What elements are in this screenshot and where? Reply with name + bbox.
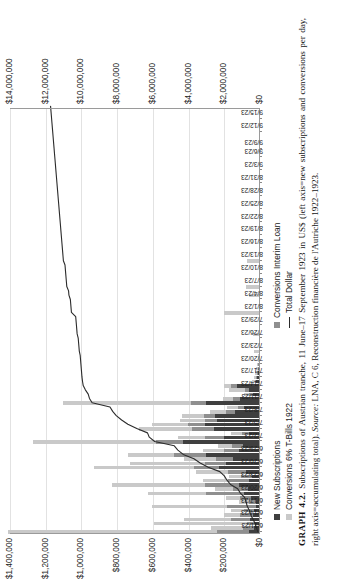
x-axis-date-label: 9/15/23 bbox=[241, 109, 263, 116]
x-axis-date-label: 6/14/23 bbox=[241, 509, 263, 516]
x-axis-date-label: 8/19/23 bbox=[241, 225, 263, 232]
x-axis-tick bbox=[260, 363, 262, 364]
y-axis-left-tick-label: $200,000 bbox=[219, 534, 228, 572]
x-axis-date-label: 7/14/23 bbox=[241, 380, 263, 387]
total-dollar-line bbox=[10, 108, 260, 534]
y-axis-right-tick-label: $6,000,000 bbox=[148, 63, 157, 108]
x-axis-tick bbox=[260, 247, 262, 248]
x-axis-date-label: 6/26/23 bbox=[241, 458, 263, 465]
x-axis-tick bbox=[260, 195, 262, 196]
chart-legend: New SubscriptionsConversions Interim Loa… bbox=[272, 120, 294, 520]
legend-item: Conversions 6% T-Bills 1922 bbox=[284, 350, 294, 520]
x-axis-date-label: 7/8/23 bbox=[245, 406, 263, 413]
y-axis-left-tick-label: $400,000 bbox=[184, 534, 193, 572]
x-axis-tick bbox=[260, 169, 262, 170]
figure-caption: GRAPH 4.2. Subscriptions of Austrian tra… bbox=[296, 18, 322, 546]
y-axis-right-tick-label: $14,000,000 bbox=[5, 58, 14, 108]
x-axis-tick bbox=[260, 311, 262, 312]
source-text: LNA, C 6, Reconstruction financière de l… bbox=[310, 173, 320, 402]
x-axis-tick bbox=[260, 299, 262, 300]
x-axis-tick bbox=[260, 157, 262, 158]
x-axis-date-label: 8/1/23 bbox=[245, 303, 263, 310]
x-axis-date-label: 7/20/23 bbox=[241, 355, 263, 362]
x-axis-tick bbox=[260, 531, 262, 532]
x-axis-date-label: 6/23/23 bbox=[241, 471, 263, 478]
x-axis-tick bbox=[260, 479, 262, 480]
x-axis-tick bbox=[260, 505, 262, 506]
x-axis-date-label: 7/5/23 bbox=[245, 419, 263, 426]
x-axis-tick bbox=[260, 118, 262, 119]
y-axis-right-tick-label: $4,000,000 bbox=[184, 63, 193, 108]
legend-square-swatch-icon bbox=[274, 322, 280, 328]
chart-plot-area: $0$200,000$400,000$600,000$800,000$1,000… bbox=[10, 108, 260, 534]
legend-item: Conversions Interim Loan bbox=[272, 158, 282, 328]
x-axis-tick bbox=[260, 518, 262, 519]
x-axis-date-label: 7/17/23 bbox=[241, 367, 263, 374]
y-axis-right-tick-label: $10,000,000 bbox=[76, 58, 85, 108]
x-axis-date-label: 6/20/23 bbox=[241, 484, 263, 491]
legend-item-label: Conversions Interim Loan bbox=[272, 223, 282, 318]
x-axis-tick bbox=[260, 466, 262, 467]
x-axis-date-label: 6/11/23 bbox=[241, 522, 263, 529]
y-axis-left-tick-label: $600,000 bbox=[148, 534, 157, 572]
x-axis-tick bbox=[260, 324, 262, 325]
x-axis-date-label: 7/2/23 bbox=[245, 432, 263, 439]
figure-number: GRAPH 4.2. bbox=[297, 492, 307, 546]
legend-item-label: Total Dollar bbox=[284, 271, 294, 313]
y-axis-right-tick-label: $12,000,000 bbox=[41, 58, 50, 108]
x-axis-date-label: 7/29/23 bbox=[241, 316, 263, 323]
legend-square-swatch-icon bbox=[274, 514, 280, 520]
x-axis-tick bbox=[260, 221, 262, 222]
x-axis-tick bbox=[260, 402, 262, 403]
x-axis-tick bbox=[260, 441, 262, 442]
legend-square-swatch-icon bbox=[286, 514, 292, 520]
x-axis-date-label: 9/12/23 bbox=[241, 122, 263, 129]
legend-item: New Subscriptions bbox=[272, 350, 282, 520]
x-axis-date-label: 7/26/23 bbox=[241, 329, 263, 336]
x-axis-tick bbox=[260, 453, 262, 454]
x-axis-tick bbox=[260, 208, 262, 209]
x-axis-tick bbox=[260, 182, 262, 183]
x-axis-tick bbox=[260, 350, 262, 351]
x-axis-tick bbox=[260, 286, 262, 287]
source-label: Source: bbox=[310, 404, 320, 432]
x-axis-date-label: 8/7/23 bbox=[245, 277, 263, 284]
x-axis-date-label: 6/17/23 bbox=[241, 497, 263, 504]
x-axis-tick bbox=[260, 337, 262, 338]
x-axis-date-label: 6/29/23 bbox=[241, 445, 263, 452]
y-axis-right-tick-label: $8,000,000 bbox=[112, 63, 121, 108]
x-axis-tick bbox=[260, 148, 262, 149]
y-axis-right-tick-label: $2,000,000 bbox=[219, 63, 228, 108]
x-axis-date-label: 8/16/23 bbox=[241, 238, 263, 245]
y-axis-left-tick-label: $1,000,000 bbox=[76, 534, 85, 579]
x-axis-tick bbox=[260, 260, 262, 261]
x-axis-tick bbox=[260, 376, 262, 377]
x-axis-tick bbox=[260, 415, 262, 416]
y-axis-right-line bbox=[10, 108, 260, 109]
x-axis-date-label: 8/31/23 bbox=[241, 174, 263, 181]
x-axis-date-label: 8/4/23 bbox=[245, 290, 263, 297]
x-axis-date-label: 7/11/23 bbox=[241, 393, 263, 400]
x-axis-date-label: 8/22/23 bbox=[241, 213, 263, 220]
x-axis-tick bbox=[260, 389, 262, 390]
x-axis-date-label: 7/23/23 bbox=[241, 342, 263, 349]
legend-item: Total Dollar bbox=[284, 158, 294, 328]
x-axis-date-label: 8/10/23 bbox=[241, 264, 263, 271]
y-axis-left-tick-label: $1,200,000 bbox=[41, 534, 50, 579]
y-axis-left-tick-label: $800,000 bbox=[112, 534, 121, 572]
x-axis-date-label: 9/6/23 bbox=[245, 148, 263, 155]
x-axis-date-label: 8/28/23 bbox=[241, 187, 263, 194]
x-axis-tick bbox=[260, 234, 262, 235]
y-axis-left-tick-label: $0 bbox=[255, 534, 264, 547]
y-axis-left-tick-label: $1,400,000 bbox=[5, 534, 14, 579]
x-axis-tick bbox=[260, 131, 262, 132]
y-axis-right-tick-label: $0 bbox=[255, 95, 264, 108]
x-axis-date-label: 9/3/23 bbox=[245, 161, 263, 168]
x-axis-date-label: 8/13/23 bbox=[241, 251, 263, 258]
x-axis-date-label: 9/9/23 bbox=[245, 139, 263, 146]
x-axis-tick bbox=[260, 492, 262, 493]
x-axis-tick bbox=[260, 428, 262, 429]
legend-item-label: Conversions 6% T-Bills 1922 bbox=[284, 403, 294, 510]
